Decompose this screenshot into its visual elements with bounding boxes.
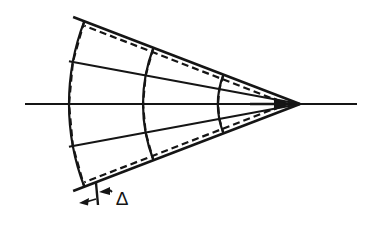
delta-label: Δ xyxy=(116,188,129,209)
central-axis-group xyxy=(25,98,357,111)
boundary-chord-approximation-1 xyxy=(84,26,291,106)
interior-radial-ray-4 xyxy=(69,104,300,147)
boundary-chord-approximation-2 xyxy=(84,102,291,182)
delta-extension-tick xyxy=(96,183,98,205)
sector-diagram: Δ xyxy=(0,0,374,228)
figure-canvas: Δ xyxy=(0,0,374,228)
sector-boundary-ray-1 xyxy=(73,17,300,104)
delta-right-arrowhead-icon xyxy=(99,187,110,195)
delta-right-arrow-shaft xyxy=(110,190,112,192)
sector-boundary-ray-5 xyxy=(73,104,300,191)
interior-radial-ray-2 xyxy=(69,61,300,104)
delta-left-arrowhead-icon xyxy=(79,198,89,206)
